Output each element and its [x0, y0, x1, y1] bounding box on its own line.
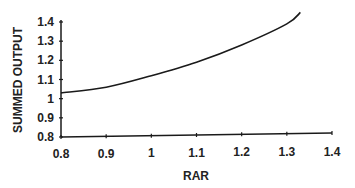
y-axis-ticks: 0.80.911.11.21.31.4	[37, 15, 63, 144]
y-tick-label: 0.9	[37, 111, 54, 125]
y-tick-label: 0.8	[37, 130, 54, 144]
x-tick-label: 1.1	[188, 146, 205, 160]
y-tick-label: 1	[47, 92, 54, 106]
x-axis-title: RAR	[183, 169, 209, 183]
x-tick-label: 1	[148, 146, 155, 160]
y-tick-label: 1.2	[37, 53, 54, 67]
y-tick-label: 1.3	[37, 34, 54, 48]
x-tick-label: 0.9	[98, 147, 115, 161]
y-tick-label: 1.4	[37, 15, 54, 29]
x-tick-label: 0.8	[53, 147, 70, 161]
axes	[61, 20, 332, 137]
data-line	[61, 12, 300, 93]
x-tick-label: 1.3	[278, 145, 295, 159]
line-chart: 0.80.911.11.21.31.4 0.80.911.11.21.31.4 …	[0, 0, 355, 188]
x-tick-label: 1.2	[233, 145, 250, 159]
y-axis-title: SUMMED OUTPUT	[11, 26, 25, 133]
x-tick-label: 1.4	[324, 145, 341, 159]
x-axis-ticks: 0.80.911.11.21.31.4	[53, 131, 341, 161]
y-tick-label: 1.1	[37, 73, 54, 87]
